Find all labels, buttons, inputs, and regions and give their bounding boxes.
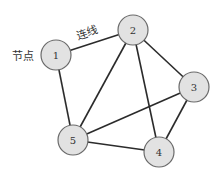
- node-annotation: 节点: [12, 47, 34, 63]
- node-3: 3: [179, 72, 209, 102]
- node-label: 4: [156, 147, 162, 158]
- edge-2-4: [133, 30, 159, 152]
- node-4: 4: [144, 137, 174, 167]
- node-5: 5: [58, 125, 88, 155]
- node-2: 2: [118, 15, 148, 45]
- graph-diagram: 12345 节点 连线: [0, 0, 217, 178]
- node-1: 1: [41, 40, 71, 70]
- graph-canvas: 12345: [0, 0, 217, 178]
- node-label: 1: [53, 50, 59, 61]
- nodes-layer: 12345: [41, 15, 209, 167]
- edge-3-5: [73, 87, 194, 140]
- node-label: 3: [191, 82, 197, 93]
- node-label: 2: [130, 25, 136, 36]
- node-label: 5: [70, 135, 76, 146]
